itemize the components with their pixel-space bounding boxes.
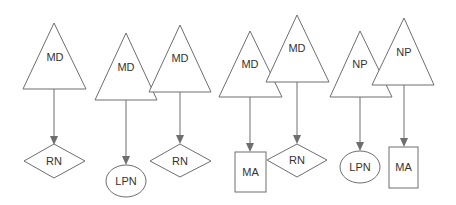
- subordinate-label-2: LPN: [115, 175, 136, 187]
- arrowhead-2: [122, 156, 130, 165]
- pair-6: NP LPN: [330, 31, 392, 183]
- arrowhead-4: [246, 143, 254, 152]
- supervisor-label-7: NP: [396, 46, 411, 58]
- pair-7: NP MA: [372, 18, 434, 188]
- subordinate-label-3: RN: [172, 155, 188, 167]
- subordinate-label-1: RN: [46, 155, 62, 167]
- subordinate-label-7: MA: [395, 161, 412, 173]
- supervisor-label-4: MD: [241, 58, 258, 70]
- pair-2: MD LPN: [95, 33, 157, 197]
- supervisor-label-5: MD: [288, 42, 305, 54]
- supervisor-label-3: MD: [171, 52, 188, 64]
- supervisor-label-1: MD: [46, 51, 63, 63]
- subordinate-label-4: MA: [242, 166, 259, 178]
- pair-4: MD MA: [219, 31, 282, 192]
- arrowhead-3: [176, 135, 184, 144]
- pair-3: MD RN: [149, 25, 211, 177]
- arrowhead-6: [356, 142, 364, 151]
- arrowhead-7: [400, 138, 408, 147]
- supervisor-label-2: MD: [117, 61, 134, 73]
- pair-1: MD RN: [23, 23, 86, 178]
- supervisor-label-6: NP: [352, 58, 367, 70]
- arrowhead-5: [293, 135, 301, 144]
- subordinate-label-5: RN: [289, 154, 305, 166]
- delegation-diagram: MD RN MD LPN MD RN MD MA MD R: [0, 0, 456, 205]
- subordinate-label-6: LPN: [349, 161, 370, 173]
